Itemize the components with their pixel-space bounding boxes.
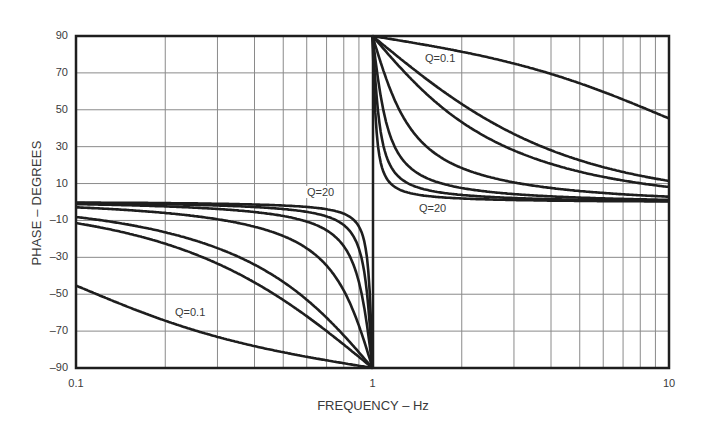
- phase-curve-left-q0_5: [76, 223, 373, 368]
- annotation-q20-right: Q=20: [418, 202, 447, 214]
- phase-curve-right-q10: [373, 36, 670, 201]
- x-tick-label: 0.1: [56, 377, 96, 389]
- phase-curve-left-q5: [76, 204, 373, 368]
- annotation-q20-left: Q=20: [306, 186, 335, 198]
- y-axis-label: PHASE – DEGREES: [29, 140, 44, 265]
- x-tick-label: 1: [353, 377, 393, 389]
- phase-curve-right-q5: [373, 36, 670, 200]
- annotation-q01-left: Q=0.1: [174, 306, 206, 318]
- phase-curve-left-q20: [76, 203, 373, 369]
- x-axis-label: FREQUENCY – Hz: [317, 398, 429, 413]
- phase-curve-left-q10: [76, 203, 373, 368]
- phase-curve-left-q0_707: [76, 217, 373, 368]
- y-tick-label: 50: [38, 103, 68, 115]
- phase-curve-right-q0_5: [373, 36, 670, 181]
- phase-chart: [0, 0, 709, 432]
- phase-curve-right-q0_707: [373, 36, 670, 187]
- phase-curve-right-q20: [373, 36, 670, 202]
- x-tick-label: 10: [649, 377, 689, 389]
- phase-curve-right-q0_1: [373, 36, 670, 119]
- phase-curve-left-q0_1: [76, 286, 373, 369]
- y-tick-label: –50: [38, 287, 68, 299]
- y-tick-label: –70: [38, 324, 68, 336]
- y-tick-label: –90: [38, 361, 68, 373]
- y-tick-label: 70: [38, 66, 68, 78]
- annotation-q01-right: Q=0.1: [424, 52, 456, 64]
- y-tick-label: 90: [38, 29, 68, 41]
